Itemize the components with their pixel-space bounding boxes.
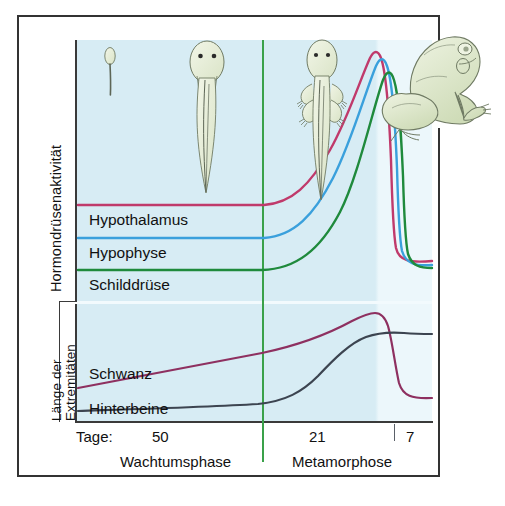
phase-label-metamorphosis: Metamorphose [292,453,392,470]
y-axis-upper [75,40,77,302]
series-label-schwanz: Schwanz [89,365,152,383]
series-label-hypothalamus: Hypothalamus [89,211,188,229]
x-axis [75,421,433,423]
x-axis-prefix-label: Tage: [76,428,113,445]
series-label-schilddruese: Schilddrüse [89,276,170,294]
x-tick-label-21: 21 [309,428,326,445]
frame-left-edge [17,15,19,477]
y-axis-upper-title: Hormondrüsenaktivität [48,145,64,292]
frame-top-edge [17,15,409,17]
y-axis-lower-title-line2: Extremitäten [64,344,78,421]
series-label-hypophyse: Hypophyse [89,244,167,262]
x-tick-label-50: 50 [152,428,169,445]
phase-label-growth: Wachtumsphase [120,453,231,470]
figure-root: Hormondrüsenaktivität Länge der Extremit… [0,0,505,506]
series-label-hinterbeine: Hinterbeine [89,400,168,418]
panel-separator [77,301,432,304]
frame-right-lower-edge [438,128,440,477]
x-tick-label-7: 7 [406,428,414,445]
phase-divider-line [262,40,264,462]
frame-bottom-edge [17,475,440,477]
frame-right-upper-edge [438,15,440,42]
x-tick-seven [394,424,395,441]
y-axis-lower-title-line1: Länge der [50,344,64,421]
y-axis-split-tick [59,301,77,302]
frame-top-right-edge [409,15,440,17]
y-axis-lower-title: Länge der Extremitäten [50,344,78,421]
